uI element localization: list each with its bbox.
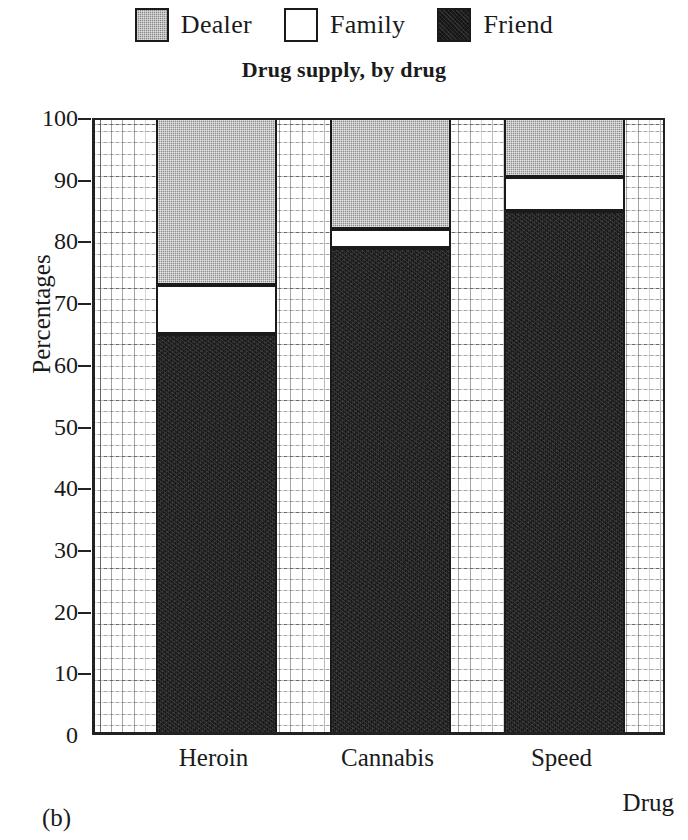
- bar-segment-heroin-dealer: [156, 118, 277, 285]
- y-tick-mark-20: [78, 612, 91, 614]
- y-tick-label-40: 40: [8, 476, 78, 500]
- chart-title: Drug supply, by drug: [0, 57, 688, 83]
- legend-entry-family: Family: [284, 8, 405, 42]
- bar-segment-heroin-friend: [156, 334, 277, 732]
- panel-caption: (b): [42, 804, 71, 832]
- bar-segment-speed-family: [504, 177, 625, 211]
- y-tick-mark-50: [78, 427, 91, 429]
- bar-segment-heroin-family: [156, 285, 277, 334]
- family-swatch-icon: [284, 8, 318, 42]
- legend-label-dealer: Dealer: [181, 12, 252, 38]
- y-tick-label-70: 70: [8, 291, 78, 315]
- y-tick-label-100: 100: [8, 106, 78, 130]
- bar-segment-cannabis-family: [330, 229, 451, 248]
- bar-segment-speed-friend: [504, 211, 625, 732]
- bar-segment-speed-dealer: [504, 118, 625, 177]
- friend-swatch-icon: [437, 8, 471, 42]
- bar-heroin: [156, 118, 277, 732]
- y-tick-mark-30: [78, 550, 91, 552]
- y-tick-label-10: 10: [8, 661, 78, 685]
- y-tick-label-90: 90: [8, 168, 78, 192]
- dealer-swatch-icon: [135, 8, 169, 42]
- bar-segment-cannabis-dealer: [330, 118, 451, 229]
- legend-entry-dealer: Dealer: [135, 8, 252, 42]
- chart-legend: Dealer Family Friend: [0, 8, 688, 42]
- x-tick-label-speed: Speed: [471, 745, 652, 770]
- y-tick-mark-70: [78, 303, 91, 305]
- plot-area: [92, 118, 665, 735]
- legend-entry-friend: Friend: [437, 8, 553, 42]
- legend-label-family: Family: [330, 12, 405, 38]
- y-tick-mark-90: [78, 180, 91, 182]
- bar-speed: [504, 118, 625, 732]
- bar-segment-cannabis-friend: [330, 248, 451, 732]
- y-tick-mark-40: [78, 488, 91, 490]
- y-tick-label-0: 0: [8, 723, 78, 747]
- y-tick-label-80: 80: [8, 229, 78, 253]
- x-tick-label-cannabis: Cannabis: [297, 745, 478, 770]
- y-tick-label-30: 30: [8, 538, 78, 562]
- x-axis-label: Drug: [623, 789, 674, 817]
- y-tick-mark-10: [78, 673, 91, 675]
- y-tick-mark-60: [78, 365, 91, 367]
- y-tick-label-50: 50: [8, 415, 78, 439]
- y-tick-label-60: 60: [8, 353, 78, 377]
- bar-cannabis: [330, 118, 451, 732]
- y-tick-mark-80: [78, 241, 91, 243]
- y-tick-label-20: 20: [8, 600, 78, 624]
- legend-label-friend: Friend: [483, 12, 553, 38]
- x-tick-label-heroin: Heroin: [123, 745, 304, 770]
- y-tick-mark-100: [78, 118, 91, 120]
